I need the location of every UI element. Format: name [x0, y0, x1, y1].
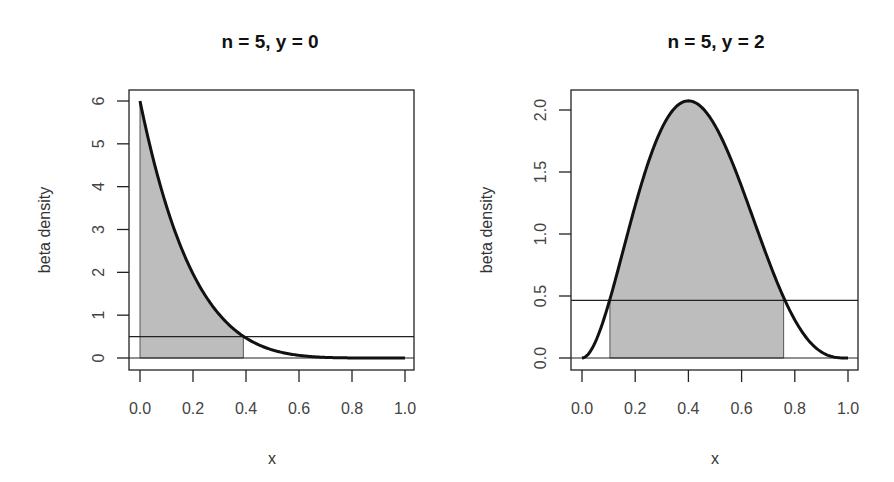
y-tick-label: 5 [90, 139, 107, 148]
left-title: n = 5, y = 0 [221, 31, 318, 52]
right-x-label: x [711, 450, 719, 467]
y-tick-label: 1.0 [532, 223, 549, 245]
x-tick-label: 0.8 [341, 400, 363, 417]
x-tick-label: 0.4 [235, 400, 257, 417]
x-tick-label: 0.0 [571, 400, 593, 417]
x-tick-label: 1.0 [394, 400, 416, 417]
left-y-axis: 0123456 [90, 96, 129, 362]
right-panel: n = 5, y = 2 0.00.20.40.60.81.0 0.00.51.… [478, 31, 859, 467]
y-tick-label: 2 [90, 268, 107, 277]
right-y-axis: 0.00.51.01.52.0 [532, 99, 571, 369]
left-y-label: beta density [36, 187, 53, 273]
y-tick-label: 0 [90, 353, 107, 362]
y-tick-label: 1.5 [532, 161, 549, 183]
y-tick-label: 6 [90, 96, 107, 105]
y-tick-label: 1 [90, 311, 107, 320]
x-tick-label: 1.0 [837, 400, 859, 417]
y-tick-label: 4 [90, 182, 107, 191]
right-x-axis: 0.00.20.40.60.81.0 [571, 370, 859, 417]
y-tick-label: 3 [90, 225, 107, 234]
left-panel: n = 5, y = 0 0.00.20.40.60.81.0 0123456 … [36, 31, 416, 467]
right-y-label: beta density [478, 187, 495, 273]
y-tick-label: 0.5 [532, 285, 549, 307]
y-tick-label: 2.0 [532, 99, 549, 121]
x-tick-label: 0.4 [677, 400, 699, 417]
figure: n = 5, y = 0 0.00.20.40.60.81.0 0123456 … [0, 0, 894, 482]
x-tick-label: 0.2 [182, 400, 204, 417]
x-tick-label: 0.0 [129, 400, 151, 417]
x-tick-label: 0.2 [624, 400, 646, 417]
left-x-label: x [268, 450, 276, 467]
x-tick-label: 0.6 [288, 400, 310, 417]
y-tick-label: 0.0 [532, 347, 549, 369]
left-x-axis: 0.00.20.40.60.81.0 [129, 370, 416, 417]
x-tick-label: 0.8 [784, 400, 806, 417]
right-title: n = 5, y = 2 [667, 31, 764, 52]
left-shaded-region [140, 101, 243, 358]
x-tick-label: 0.6 [730, 400, 752, 417]
